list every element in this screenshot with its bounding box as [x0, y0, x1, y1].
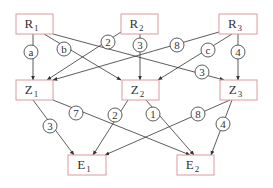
- edge-z2-e1: [93, 100, 128, 155]
- node-e2: E2: [177, 155, 214, 175]
- node-r1: R1: [16, 14, 53, 34]
- edge-label-text: 4: [235, 46, 241, 58]
- edge-label: 8: [170, 38, 184, 52]
- node-r2: R2: [121, 14, 158, 34]
- edge-label-text: b: [61, 43, 67, 55]
- edge-label-text: 3: [137, 39, 143, 51]
- edge-label: 3: [43, 119, 57, 133]
- node-z2: Z2: [122, 80, 159, 100]
- edge-arrow: [93, 100, 128, 155]
- node-z3: Z3: [220, 80, 257, 100]
- edge-arrow: [105, 100, 230, 155]
- edge-label-text: c: [206, 44, 211, 56]
- network-diagram: ab3238c4372184 R1R2R3Z1Z2Z3E1E2: [0, 0, 273, 188]
- edge-label-text: 7: [73, 107, 79, 119]
- node-z1: Z1: [16, 80, 53, 100]
- edge-label: c: [201, 43, 215, 57]
- edge-label-text: 4: [220, 118, 226, 130]
- edge-label-text: 8: [174, 39, 180, 51]
- edge-label: 3: [133, 38, 147, 52]
- edge-label-text: 2: [105, 36, 111, 48]
- edge-label-text: a: [29, 46, 34, 58]
- edge-z3-e1: [105, 100, 230, 155]
- edge-label: 4: [216, 117, 230, 131]
- node-e1: E1: [68, 155, 106, 175]
- edge-label: a: [24, 45, 38, 59]
- edge-label-text: 3: [47, 120, 53, 132]
- edge-label: 1: [146, 107, 160, 121]
- edge-label: 4: [231, 45, 245, 59]
- edge-label-text: 3: [199, 66, 205, 78]
- node-r3: R3: [219, 14, 257, 34]
- edge-label: b: [57, 42, 71, 56]
- edge-label: 7: [69, 106, 83, 120]
- edge-label-text: 2: [112, 109, 118, 121]
- edge-label: 3: [195, 65, 209, 79]
- edge-label: 8: [191, 107, 205, 121]
- edge-label-text: 1: [150, 108, 156, 120]
- edge-label-text: 8: [195, 108, 201, 120]
- edge-label: 2: [108, 108, 122, 122]
- edge-label: 2: [101, 35, 115, 49]
